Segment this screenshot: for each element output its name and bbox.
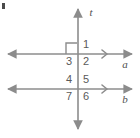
angle-label-6: 6 — [80, 91, 92, 102]
right-angle-square — [66, 43, 77, 54]
geometry-figure: 1 2 3 4 5 6 7 t a b — [0, 0, 140, 138]
line-label-b: b — [119, 94, 131, 105]
angle-label-5: 5 — [80, 74, 92, 85]
line-label-a: a — [119, 59, 131, 70]
angle-label-2: 2 — [80, 56, 92, 67]
angle-label-7: 7 — [63, 91, 75, 102]
angle-label-3: 3 — [63, 56, 75, 67]
angle-label-4: 4 — [63, 74, 75, 85]
angle-label-1: 1 — [80, 39, 92, 50]
line-label-t: t — [85, 7, 97, 18]
